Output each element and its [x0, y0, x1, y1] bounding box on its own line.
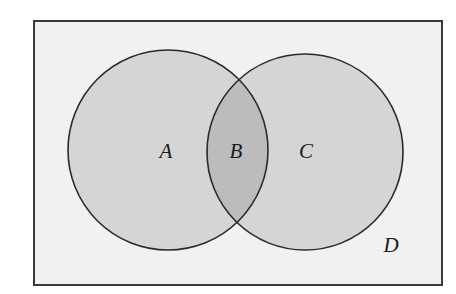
set-label-b: B	[230, 139, 243, 163]
set-label-d: D	[382, 233, 398, 257]
venn-diagram-figure: A B C D	[0, 0, 456, 294]
set-label-c: C	[299, 139, 314, 163]
set-label-a: A	[158, 139, 173, 163]
venn-diagram-canvas: A B C D	[0, 0, 456, 294]
